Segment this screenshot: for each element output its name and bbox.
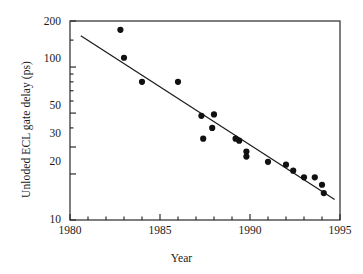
data-point (117, 27, 123, 33)
data-point (301, 174, 307, 180)
y-tick-label-30: 30 (27, 127, 61, 139)
data-point (236, 138, 242, 144)
data-point (265, 159, 271, 165)
data-point (312, 174, 318, 180)
x-tick-label-1985: 1985 (138, 224, 182, 236)
data-point (211, 111, 217, 117)
y-tick-label-20: 20 (27, 155, 61, 167)
plot-frame (70, 21, 340, 220)
data-point (200, 136, 206, 142)
data-point (139, 79, 145, 85)
y-tick-label-200: 200 (27, 15, 61, 27)
data-point (243, 153, 249, 159)
y-tick-label-50: 50 (27, 99, 61, 111)
data-point (209, 125, 215, 131)
x-tick-label-1995: 1995 (318, 224, 362, 236)
chart-figure: Unloded ECL gate delay (ps) Year 200 100… (0, 0, 363, 274)
x-tick-label-1990: 1990 (228, 224, 272, 236)
data-point (290, 168, 296, 174)
data-point (321, 190, 327, 196)
data-point (175, 79, 181, 85)
data-point (121, 55, 127, 61)
x-tick-label-1980: 1980 (48, 224, 92, 236)
data-point (283, 162, 289, 168)
y-tick-label-100: 100 (27, 52, 61, 64)
x-axis-label: Year (0, 252, 363, 264)
data-point (198, 113, 204, 119)
data-point (319, 182, 325, 188)
